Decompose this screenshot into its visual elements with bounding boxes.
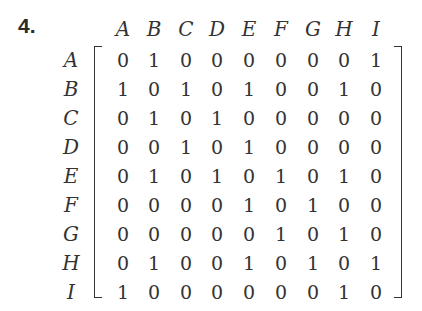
matrix-cell: 0 bbox=[171, 194, 201, 216]
matrix-cell: 0 bbox=[171, 107, 201, 129]
matrix-cell: 1 bbox=[266, 165, 296, 187]
matrix-cell: 0 bbox=[329, 136, 359, 158]
matrix-cell: 0 bbox=[139, 136, 169, 158]
matrix-cell: 0 bbox=[171, 49, 201, 71]
matrix-cell: 1 bbox=[171, 78, 201, 100]
matrix-cell: 0 bbox=[298, 223, 328, 245]
row-label: F bbox=[56, 193, 86, 217]
matrix-cell: 0 bbox=[139, 223, 169, 245]
matrix-cell: 0 bbox=[108, 194, 138, 216]
column-header: G bbox=[298, 17, 328, 41]
matrix-cell: 0 bbox=[329, 252, 359, 274]
matrix-cell: 0 bbox=[266, 49, 296, 71]
problem-number: 4. bbox=[18, 14, 36, 38]
matrix-cell: 0 bbox=[298, 107, 328, 129]
matrix-cell: 1 bbox=[234, 136, 264, 158]
column-header: I bbox=[361, 17, 391, 41]
matrix-cell: 0 bbox=[234, 281, 264, 303]
matrix-cell: 0 bbox=[266, 194, 296, 216]
column-header: H bbox=[329, 17, 359, 41]
row-label: I bbox=[56, 280, 86, 304]
matrix-cell: 0 bbox=[202, 194, 232, 216]
matrix-cell: 1 bbox=[171, 136, 201, 158]
matrix-cell: 0 bbox=[361, 165, 391, 187]
left-bracket bbox=[94, 46, 102, 298]
matrix-cell: 0 bbox=[329, 107, 359, 129]
matrix-cell: 1 bbox=[361, 49, 391, 71]
matrix-cell: 0 bbox=[298, 49, 328, 71]
matrix-cell: 0 bbox=[361, 194, 391, 216]
matrix-cell: 0 bbox=[108, 107, 138, 129]
matrix-cell: 1 bbox=[298, 194, 328, 216]
matrix-cell: 0 bbox=[298, 165, 328, 187]
column-header: E bbox=[234, 17, 264, 41]
column-header: C bbox=[171, 17, 201, 41]
matrix-cell: 0 bbox=[202, 252, 232, 274]
matrix-cell: 0 bbox=[139, 194, 169, 216]
matrix-cell: 0 bbox=[234, 49, 264, 71]
matrix-cell: 0 bbox=[298, 281, 328, 303]
matrix-cell: 1 bbox=[139, 252, 169, 274]
matrix-cell: 1 bbox=[298, 252, 328, 274]
column-header: B bbox=[139, 17, 169, 41]
row-label: C bbox=[56, 106, 86, 130]
matrix-cell: 1 bbox=[329, 78, 359, 100]
matrix-cell: 0 bbox=[234, 165, 264, 187]
matrix-cell: 1 bbox=[202, 165, 232, 187]
column-header: A bbox=[108, 17, 138, 41]
matrix-cell: 0 bbox=[266, 107, 296, 129]
row-label: B bbox=[56, 77, 86, 101]
row-label: A bbox=[56, 48, 86, 72]
row-label: E bbox=[56, 164, 86, 188]
matrix-cell: 0 bbox=[298, 78, 328, 100]
matrix-cell: 0 bbox=[266, 281, 296, 303]
row-label: H bbox=[56, 251, 86, 275]
matrix-cell: 1 bbox=[139, 107, 169, 129]
matrix-cell: 0 bbox=[298, 136, 328, 158]
matrix-cell: 1 bbox=[202, 107, 232, 129]
matrix-cell: 1 bbox=[139, 165, 169, 187]
matrix-cell: 1 bbox=[234, 252, 264, 274]
matrix-cell: 0 bbox=[234, 223, 264, 245]
matrix-cell: 0 bbox=[266, 136, 296, 158]
matrix-cell: 0 bbox=[108, 252, 138, 274]
matrix-cell: 0 bbox=[329, 194, 359, 216]
row-label: G bbox=[56, 222, 86, 246]
matrix-cell: 0 bbox=[171, 252, 201, 274]
matrix-cell: 0 bbox=[108, 165, 138, 187]
matrix-cell: 0 bbox=[361, 281, 391, 303]
matrix-cell: 0 bbox=[202, 49, 232, 71]
column-header: D bbox=[202, 17, 232, 41]
matrix-cell: 0 bbox=[139, 281, 169, 303]
matrix-cell: 0 bbox=[202, 78, 232, 100]
matrix-cell: 0 bbox=[108, 136, 138, 158]
matrix-cell: 1 bbox=[266, 223, 296, 245]
matrix-cell: 0 bbox=[108, 49, 138, 71]
matrix-cell: 1 bbox=[329, 281, 359, 303]
matrix-cell: 0 bbox=[361, 136, 391, 158]
matrix-cell: 1 bbox=[234, 78, 264, 100]
matrix-cell: 1 bbox=[139, 49, 169, 71]
right-bracket bbox=[394, 46, 402, 298]
matrix-cell: 0 bbox=[234, 107, 264, 129]
matrix-cell: 0 bbox=[139, 78, 169, 100]
matrix-cell: 0 bbox=[108, 223, 138, 245]
matrix-cell: 0 bbox=[171, 165, 201, 187]
matrix-cell: 1 bbox=[329, 165, 359, 187]
matrix-cell: 0 bbox=[202, 136, 232, 158]
row-label: D bbox=[56, 135, 86, 159]
matrix-cell: 0 bbox=[361, 223, 391, 245]
matrix-cell: 1 bbox=[329, 223, 359, 245]
matrix-cell: 0 bbox=[202, 281, 232, 303]
matrix-cell: 0 bbox=[171, 281, 201, 303]
matrix-cell: 0 bbox=[361, 78, 391, 100]
matrix-cell: 0 bbox=[266, 252, 296, 274]
matrix-cell: 0 bbox=[329, 49, 359, 71]
matrix-cell: 0 bbox=[266, 78, 296, 100]
matrix-cell: 0 bbox=[361, 107, 391, 129]
matrix-cell: 0 bbox=[171, 223, 201, 245]
matrix-cell: 1 bbox=[108, 281, 138, 303]
matrix-cell: 0 bbox=[202, 223, 232, 245]
matrix-cell: 1 bbox=[361, 252, 391, 274]
matrix-cell: 1 bbox=[234, 194, 264, 216]
